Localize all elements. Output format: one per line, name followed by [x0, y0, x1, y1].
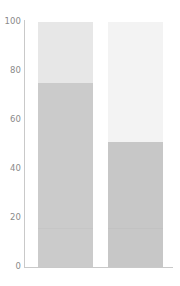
y-axis-line	[24, 20, 25, 268]
y-tick-label-100: 100	[1, 17, 21, 26]
y-tick-40: 40	[0, 164, 21, 173]
bar-2-inner-line	[108, 228, 163, 229]
bar-2-upper-segment[interactable]	[108, 22, 163, 142]
y-tick-label-80: 80	[1, 66, 21, 75]
chart-root: 100 80 60 40 20 0	[0, 0, 180, 286]
bar-1-inner-line	[38, 228, 93, 229]
bar-1-upper-segment[interactable]	[38, 22, 93, 83]
bar-2-lower-segment[interactable]	[108, 142, 163, 267]
bar-series-2[interactable]	[108, 22, 163, 267]
y-tick-label-20: 20	[1, 213, 21, 222]
x-axis-line	[24, 267, 173, 268]
plot-area: 100 80 60 40 20 0	[0, 0, 180, 286]
y-tick-80: 80	[0, 66, 21, 75]
y-tick-0: 0	[0, 262, 21, 271]
bar-1-lower-segment[interactable]	[38, 83, 93, 267]
y-tick-60: 60	[0, 115, 21, 124]
y-tick-label-60: 60	[1, 115, 21, 124]
y-tick-label-0: 0	[1, 262, 21, 271]
y-tick-label-40: 40	[1, 164, 21, 173]
bar-series-1[interactable]	[38, 22, 93, 267]
y-tick-100: 100	[0, 17, 21, 26]
y-tick-20: 20	[0, 213, 21, 222]
